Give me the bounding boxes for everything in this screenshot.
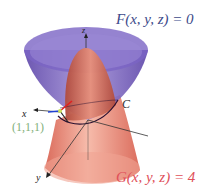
surface-intersection-diagram: F(x, y, z) = 0 G(x, y, z) = 4 C (1,1,1) … [0,0,201,192]
point-label: (1,1,1) [12,121,44,133]
surface-f-label: F(x, y, z) = 0 [116,12,194,27]
y-axis-label: y [36,173,40,183]
diagram-graphic [0,0,201,192]
x-axis-label: x [22,109,26,119]
z-axis-label: z [82,27,85,35]
surface-g-label: G(x, y, z) = 4 [116,170,195,185]
curve-c-label: C [122,98,130,110]
